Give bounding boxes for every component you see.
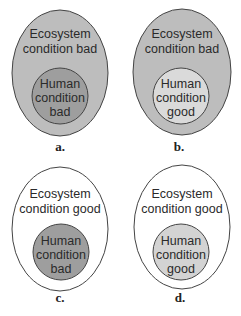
ecosystem-label-line1: Ecosystem: [29, 187, 90, 201]
human-label-line2: condition: [156, 91, 206, 105]
human-label-line2: condition: [35, 91, 85, 105]
panel-label-d: d.: [175, 290, 185, 305]
human-label-line3: good: [167, 105, 195, 119]
panel-label-b: b.: [174, 139, 184, 154]
panel-c: Ecosystem condition good Human condition…: [12, 167, 108, 305]
ecosystem-label-line2: condition good: [141, 202, 222, 216]
human-label-line3: bad: [50, 105, 71, 119]
diagram-canvas: Ecosystem condition bad Human condition …: [0, 0, 241, 316]
human-label-line3: good: [167, 262, 195, 276]
human-label-line1: Human: [41, 234, 81, 248]
human-label-line1: Human: [161, 234, 201, 248]
ecosystem-label-line2: condition bad: [23, 42, 97, 56]
human-label-line1: Human: [161, 77, 201, 91]
human-label-line1: Human: [40, 77, 80, 91]
human-label-line2: condition: [36, 248, 86, 262]
ecosystem-label-line1: Ecosystem: [151, 27, 212, 41]
ecosystem-label-line1: Ecosystem: [29, 27, 90, 41]
panel-label-a: a.: [55, 139, 65, 154]
human-label-line3: bad: [51, 262, 72, 276]
panel-d: Ecosystem condition good Human condition…: [134, 165, 230, 305]
ecosystem-label-line2: condition good: [19, 202, 100, 216]
panel-a: Ecosystem condition bad Human condition …: [12, 10, 108, 154]
panel-label-c: c.: [55, 290, 64, 305]
ecosystem-label-line1: Ecosystem: [151, 187, 212, 201]
human-label-line2: condition: [156, 248, 206, 262]
panel-b: Ecosystem condition bad Human condition …: [133, 9, 231, 154]
ecosystem-label-line2: condition bad: [145, 42, 219, 56]
